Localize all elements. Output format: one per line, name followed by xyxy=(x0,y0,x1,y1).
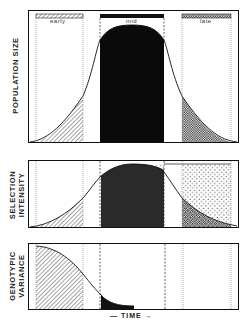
xlabel-time: — TIME → xyxy=(110,312,153,319)
figure-canvas xyxy=(0,0,247,323)
panel-genotypic-variance xyxy=(29,244,239,310)
panel-selection-intensity xyxy=(29,161,239,228)
zone-label-late: late xyxy=(200,18,212,24)
ylabel-population-size: POPULATION SIZE xyxy=(11,26,20,126)
ylabel-selection-intensity: SELECTION INTENSITY xyxy=(8,165,26,225)
early-zone-fill xyxy=(36,96,83,142)
ylabel-genotypic-variance: GENOTYPIC VARIANCE xyxy=(8,246,26,306)
mid-zone-fill xyxy=(100,25,164,142)
mid-zone-fill xyxy=(101,164,164,227)
panel-population-size xyxy=(29,11,239,143)
zone-label-early: early xyxy=(50,18,66,24)
late-zone-fill xyxy=(182,96,231,142)
zone-label-mid: mid xyxy=(126,18,137,24)
